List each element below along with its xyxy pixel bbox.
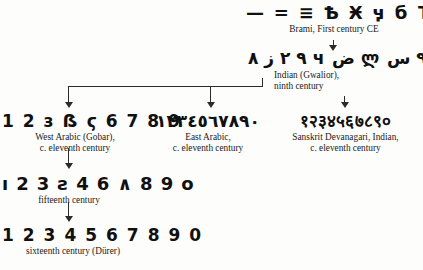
node-fifteenth-century: ı 2 3 ƨ 4 6 ∧ 8 9 o fifteenth century [2, 175, 136, 206]
numeral-evolution-diagram: — = ≡ Ѣ Ӿ ӌ б Ъ Ғ З Brami, First century… [0, 0, 423, 270]
caption-west-arabic-line1: West Arabic (Gobar), [2, 132, 148, 143]
connector-west-arabic-to-fifteenth [68, 148, 69, 164]
caption-sixteenth: sixteenth century (Dürer) [2, 246, 144, 257]
glyph-row-devanagari: १२३४५६७८९० [268, 113, 423, 130]
node-sixteenth-century: 1 2 3 4 5 6 7 8 9 0 sixteenth century (D… [2, 227, 144, 257]
caption-devanagari-line2: c. eleventh century [268, 143, 423, 154]
arrowhead-west-arabic [65, 102, 73, 108]
glyph-row-gwalior: ٩ ٢ ز ٨ ч ض ლ ٩ س ф ° [248, 50, 420, 67]
arrowhead-fifteenth [65, 163, 73, 169]
caption-brahmi: Brami, First century CE [246, 24, 422, 35]
caption-west-arabic-line2: c. eleventh century [2, 143, 148, 154]
node-brahmi: — = ≡ Ѣ Ӿ ӌ б Ъ Ғ З Brami, First century… [246, 4, 422, 35]
caption-east-arabic-line1: East Arabic, [144, 132, 272, 143]
caption-gwalior-line1: Indian (Gwalior), [248, 70, 420, 81]
arrowhead-devanagari [341, 102, 349, 108]
connector-distribution-bar [69, 86, 263, 87]
caption-gwalior-line2: ninth century [248, 81, 420, 92]
arrowhead-east-arabic [207, 102, 215, 108]
glyph-row-west-arabic: 1 2 з ẞ ϛ 6 7 8 9 [2, 113, 148, 130]
glyph-row-fifteenth: ı 2 3 ƨ 4 6 ∧ 8 9 o [2, 175, 136, 193]
glyph-row-east-arabic: ١٢٣٤٥٦٧٨٩٠ [144, 113, 272, 130]
caption-east-arabic-line2: c. eleventh century [144, 143, 272, 154]
glyph-row-brahmi: — = ≡ Ѣ Ӿ ӌ б Ъ Ғ З [246, 4, 422, 22]
glyph-row-sixteenth: 1 2 3 4 5 6 7 8 9 0 [2, 227, 144, 244]
node-west-arabic: 1 2 з ẞ ϛ 6 7 8 9 West Arabic (Gobar), c… [2, 113, 148, 153]
node-gwalior: ٩ ٢ ز ٨ ч ض ლ ٩ س ф ° Indian (Gwalior), … [248, 50, 420, 91]
caption-devanagari-line1: Sanskrit Devanagari, Indian, [268, 132, 423, 143]
arrowhead-sixteenth [65, 216, 73, 222]
connector-fifteenth-to-sixteenth [68, 202, 69, 217]
node-east-arabic: ١٢٣٤٥٦٧٨٩٠ East Arabic, c. eleventh cent… [144, 113, 272, 153]
node-devanagari: १२३४५६७८९० Sanskrit Devanagari, Indian, … [268, 113, 423, 153]
